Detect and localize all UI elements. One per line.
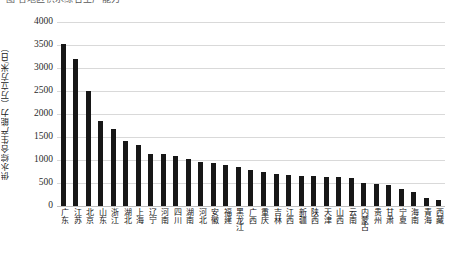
chart-screenshot: 图 各地区供水综合生产能力 供水综合生产能力（万立方米/日） 050010001…	[0, 0, 450, 262]
x-axis-tick: 重庆	[257, 208, 270, 262]
x-axis-tick: 河南	[157, 208, 170, 262]
x-axis-tick: 江西	[282, 208, 295, 262]
bar	[411, 192, 416, 206]
y-axis-tick-label: 500	[9, 178, 53, 188]
bar	[86, 91, 91, 206]
y-axis-tick-label: 3500	[9, 40, 53, 50]
x-axis-tick: 安徽	[207, 208, 220, 262]
x-axis-tick-label: 湖北	[122, 208, 131, 223]
bar	[386, 185, 391, 206]
x-axis-tick-label: 福建	[222, 208, 231, 223]
x-axis-tick: 广东	[57, 208, 70, 262]
x-axis-tick-label: 江西	[284, 208, 293, 223]
x-axis-tick: 浙江	[107, 208, 120, 262]
y-axis-tick-label: 1500	[9, 132, 53, 142]
bar	[148, 154, 153, 206]
x-axis-tick: 天津	[320, 208, 333, 262]
bar-slot	[370, 22, 383, 206]
x-axis-tick: 湖南	[182, 208, 195, 262]
x-axis-tick-label: 内蒙古	[359, 208, 368, 231]
x-axis-tick: 吉林	[270, 208, 283, 262]
bar	[436, 200, 441, 206]
bar	[98, 121, 103, 206]
bar-slot	[95, 22, 108, 206]
x-axis-tick: 西藏	[432, 208, 445, 262]
bar-slot	[407, 22, 420, 206]
bar-slot	[420, 22, 433, 206]
bar	[136, 145, 141, 206]
bar	[111, 129, 116, 206]
x-axis-tick: 山东	[95, 208, 108, 262]
bar	[274, 174, 279, 206]
bar	[324, 177, 329, 206]
bar-slot	[320, 22, 333, 206]
y-axis-tick-label: 0	[9, 201, 53, 211]
x-axis-tick-label: 重庆	[259, 208, 268, 223]
bar	[311, 176, 316, 206]
bar	[349, 178, 354, 206]
x-axis-tick-label: 四川	[172, 208, 181, 223]
bar-slot	[70, 22, 83, 206]
y-axis-tick-label: 2500	[9, 86, 53, 96]
x-axis-tick: 福建	[220, 208, 233, 262]
bar	[73, 59, 78, 206]
bar	[173, 156, 178, 206]
bar-slot	[145, 22, 158, 206]
x-axis-tick: 湖北	[120, 208, 133, 262]
bar	[374, 184, 379, 206]
x-axis-tick: 河北	[195, 208, 208, 262]
x-axis-tick: 内蒙古	[357, 208, 370, 262]
y-axis-tick-label: 4000	[9, 17, 53, 27]
bar-slot	[382, 22, 395, 206]
bar-slot	[357, 22, 370, 206]
x-axis-tick: 北京	[82, 208, 95, 262]
bar-slot	[245, 22, 258, 206]
x-axis-tick-label: 云南	[347, 208, 356, 223]
x-axis-tick-label: 上海	[134, 208, 143, 223]
x-axis-tick-label: 广东	[59, 208, 68, 223]
x-axis-tick: 海南	[407, 208, 420, 262]
bar	[361, 183, 366, 206]
y-axis-tick-label: 3000	[9, 63, 53, 73]
bar	[211, 163, 216, 206]
bar-series	[57, 22, 445, 206]
x-axis-tick-label: 安徽	[209, 208, 218, 223]
x-axis-tick-label: 广西	[247, 208, 256, 223]
x-axis-tick: 陕西	[307, 208, 320, 262]
x-axis-tick: 广西	[245, 208, 258, 262]
x-axis-tick-label: 山西	[334, 208, 343, 223]
bar-slot	[395, 22, 408, 206]
x-axis-tick-label: 海南	[409, 208, 418, 223]
bar-slot	[107, 22, 120, 206]
x-axis-tick-label: 贵州	[372, 208, 381, 223]
bar-slot	[120, 22, 133, 206]
x-axis-tick: 黑龙江	[232, 208, 245, 262]
x-axis-tick-label: 西藏	[434, 208, 443, 223]
bar-slot	[257, 22, 270, 206]
bar-slot	[432, 22, 445, 206]
y-axis-tick-label: 1000	[9, 155, 53, 165]
x-axis-tick-label: 甘肃	[384, 208, 393, 223]
x-axis-tick-label: 青海	[422, 208, 431, 223]
bar-slot	[207, 22, 220, 206]
bar	[186, 159, 191, 206]
x-axis-tick: 江苏	[70, 208, 83, 262]
bar-slot	[232, 22, 245, 206]
x-axis-tick: 新疆	[295, 208, 308, 262]
bar	[198, 162, 203, 206]
x-axis-tick-label: 黑龙江	[234, 208, 243, 231]
bar	[399, 189, 404, 206]
bar	[424, 198, 429, 206]
bar	[286, 175, 291, 206]
bar-slot	[295, 22, 308, 206]
x-axis-tick: 山西	[332, 208, 345, 262]
bar	[248, 170, 253, 206]
x-axis-tick: 四川	[170, 208, 183, 262]
x-axis-tick-label: 浙江	[109, 208, 118, 223]
bar-slot	[182, 22, 195, 206]
bar	[299, 176, 304, 206]
x-axis-tick-label: 宁夏	[397, 208, 406, 223]
x-axis-tick-label: 北京	[84, 208, 93, 223]
x-axis-tick: 甘肃	[382, 208, 395, 262]
x-axis-tick: 辽宁	[145, 208, 158, 262]
